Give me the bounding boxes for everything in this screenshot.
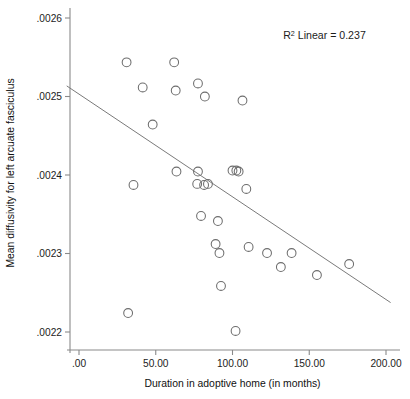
y-tick-label-3: .0025 bbox=[37, 91, 63, 102]
data-point bbox=[138, 83, 147, 92]
data-point bbox=[242, 185, 251, 194]
data-point bbox=[345, 260, 354, 269]
data-point bbox=[170, 58, 179, 67]
data-point bbox=[197, 212, 206, 221]
data-point bbox=[217, 282, 226, 291]
data-point bbox=[263, 249, 272, 258]
data-point bbox=[122, 58, 131, 67]
x-tick-label-3: 150.00 bbox=[294, 358, 325, 369]
data-point bbox=[287, 249, 296, 258]
y-tick-label-1: .0023 bbox=[37, 248, 63, 259]
y-axis-title: Mean diffusivity for left arcuate fascic… bbox=[5, 78, 16, 267]
data-point bbox=[276, 263, 285, 272]
data-point bbox=[214, 217, 223, 226]
data-point bbox=[313, 271, 322, 280]
r-squared-annotation: R2 Linear = 0.237 bbox=[283, 29, 366, 42]
plot-canvas: .0022.0023.0024.0025.0026.0050.00100.001… bbox=[0, 0, 410, 399]
scatter-plot-figure: .0022.0023.0024.0025.0026.0050.00100.001… bbox=[0, 0, 410, 399]
data-point bbox=[211, 240, 220, 249]
y-tick-label-2: .0024 bbox=[37, 170, 63, 181]
data-point bbox=[172, 167, 181, 176]
data-point bbox=[231, 327, 240, 336]
y-tick-label-0: .0022 bbox=[37, 327, 63, 338]
data-point bbox=[200, 92, 209, 101]
data-point bbox=[129, 181, 138, 190]
data-point bbox=[124, 309, 133, 318]
x-tick-label-0: .00 bbox=[72, 358, 86, 369]
x-axis-title: Duration in adoptive home (in months) bbox=[144, 378, 320, 389]
data-point bbox=[194, 79, 203, 88]
data-point bbox=[148, 120, 157, 129]
data-point bbox=[244, 243, 253, 252]
data-point bbox=[171, 86, 180, 95]
y-tick-label-4: .0026 bbox=[37, 13, 63, 24]
x-tick-label-2: 100.00 bbox=[217, 358, 248, 369]
regression-fit-line bbox=[67, 86, 391, 303]
data-point bbox=[238, 96, 247, 105]
x-tick-label-4: 200.00 bbox=[370, 358, 401, 369]
x-tick-label-1: 50.00 bbox=[143, 358, 169, 369]
data-point bbox=[215, 249, 224, 258]
